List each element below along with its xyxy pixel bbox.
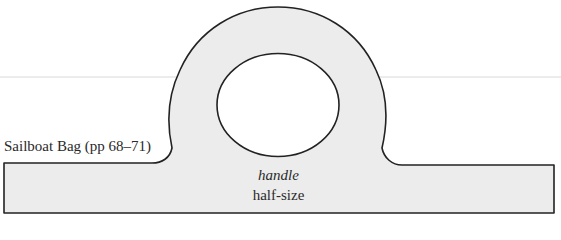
pattern-piece-name: handle: [0, 168, 557, 183]
handle-hole: [217, 54, 339, 157]
figure-caption: Sailboat Bag (pp 68–71): [4, 139, 151, 154]
pattern-scale-note: half-size: [0, 188, 557, 203]
